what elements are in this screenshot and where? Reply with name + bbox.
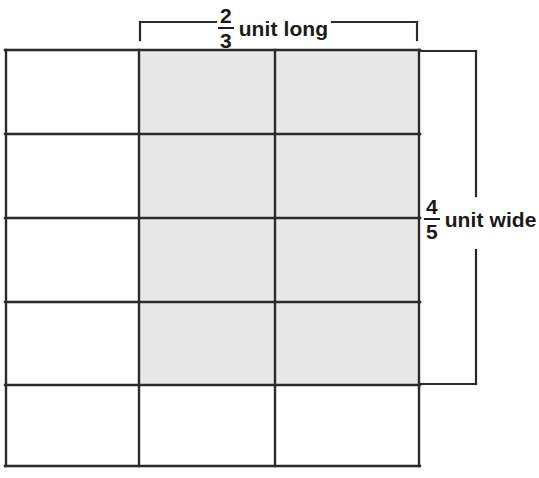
label-unit-wide-text: unit wide	[445, 209, 537, 230]
fraction-four-fifths: 4 5	[424, 196, 440, 242]
figure-canvas: 2 3 unit long 4 5 unit wide	[0, 0, 539, 478]
label-unit-wide: 4 5 unit wide	[424, 196, 537, 242]
label-unit-long-text: unit long	[239, 18, 329, 39]
fraction-two-thirds: 2 3	[218, 5, 234, 51]
fraction-numerator: 2	[218, 5, 234, 27]
fraction-denominator: 3	[218, 29, 234, 51]
label-unit-long: 2 3 unit long	[218, 5, 328, 51]
fraction-numerator: 4	[424, 196, 440, 218]
fraction-denominator: 5	[424, 220, 440, 242]
